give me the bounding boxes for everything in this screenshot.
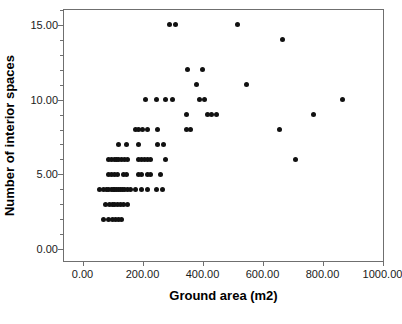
y-axis-minor-tick: [60, 55, 63, 56]
x-axis-tick-label: 200.00: [126, 269, 160, 280]
x-axis-tick: [203, 262, 204, 266]
y-axis-minor-tick: [60, 70, 63, 71]
x-axis-tick-label: 600.00: [246, 269, 280, 280]
y-axis-minor-tick: [60, 204, 63, 205]
y-axis-minor-tick: [60, 234, 63, 235]
y-axis-tick-label: 5.00: [37, 169, 58, 180]
x-axis-tick: [263, 262, 264, 266]
y-axis-minor-tick: [60, 130, 63, 131]
y-axis-minor-tick: [60, 219, 63, 220]
y-axis-minor-tick: [60, 40, 63, 41]
x-axis-tick-label: 0.00: [72, 269, 93, 280]
y-axis-minor-tick: [60, 115, 63, 116]
y-axis-tick: [58, 249, 63, 250]
x-axis-title: Ground area (m2): [63, 288, 384, 303]
x-axis-tick-label: 400.00: [186, 269, 220, 280]
x-axis-tick: [83, 262, 84, 266]
y-axis-tick-label: 10.00: [30, 94, 58, 105]
y-axis-minor-tick: [60, 189, 63, 190]
y-axis-tick: [58, 174, 63, 175]
x-axis-tick: [383, 262, 384, 266]
y-axis-title: Number of interior spaces: [0, 9, 20, 262]
y-axis-minor-tick: [60, 10, 63, 11]
y-axis-title-text: Number of interior spaces: [3, 55, 18, 216]
y-axis-tick-label: 0.00: [37, 244, 58, 255]
y-axis-tick: [58, 25, 63, 26]
y-axis-tick-label: 15.00: [30, 19, 58, 30]
x-axis-tick-label: 1000.00: [363, 269, 402, 280]
x-axis-tick: [323, 262, 324, 266]
y-axis-minor-tick: [60, 85, 63, 86]
plot-area-frame: [63, 9, 384, 262]
y-axis-tick: [58, 100, 63, 101]
y-axis-minor-tick: [60, 159, 63, 160]
y-axis-minor-tick: [60, 144, 63, 145]
x-axis-tick: [143, 262, 144, 266]
x-axis-tick-label: 800.00: [306, 269, 340, 280]
